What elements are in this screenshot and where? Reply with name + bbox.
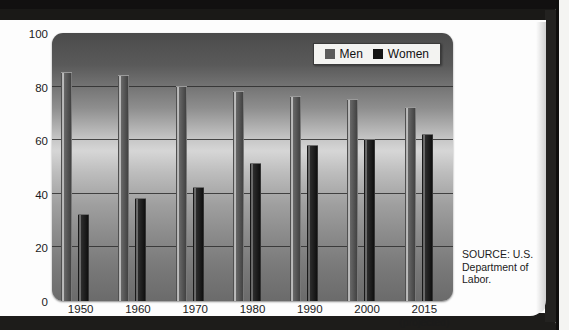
page-frame-right <box>545 10 556 322</box>
bar-highlight <box>119 76 121 301</box>
bar-edge-highlight <box>186 87 187 301</box>
bar-highlight <box>234 92 236 301</box>
page-frame-top <box>0 0 556 22</box>
x-tick-label-1980: 1980 <box>240 303 266 315</box>
bar-women-1950 <box>78 214 89 301</box>
bar-highlight <box>79 215 81 301</box>
bar-highlight <box>348 100 350 301</box>
bar-highlight <box>62 73 64 301</box>
bar-edge-highlight <box>71 73 72 301</box>
y-tick-label-80: 80 <box>2 82 48 94</box>
y-tick-label-0: 0 <box>2 296 48 308</box>
bar-group-2000 <box>338 33 395 301</box>
bar-group-1960 <box>109 33 166 301</box>
bar-edge-highlight <box>415 108 416 301</box>
bar-highlight <box>194 188 196 301</box>
bar-group-1990 <box>281 33 338 301</box>
bar-women-2000 <box>364 139 375 301</box>
bar-edge-highlight <box>243 92 244 301</box>
bar-women-1980 <box>250 163 261 301</box>
bar-highlight <box>251 164 253 301</box>
source-note: SOURCE: U.S. Department of Labor. <box>462 248 542 286</box>
source-line-2: Department of <box>462 261 529 273</box>
bar-edge-highlight <box>88 215 89 301</box>
bar-chart: 020406080100 Men Women 19501960197019801… <box>0 20 546 316</box>
bar-women-2015 <box>422 134 433 301</box>
bar-women-1970 <box>193 187 204 301</box>
bar-edge-highlight <box>260 164 261 301</box>
bar-edge-highlight <box>317 146 318 301</box>
legend-swatch-men-icon <box>325 49 335 59</box>
y-axis: 020406080100 <box>0 33 48 301</box>
page-edge-right <box>556 0 569 330</box>
bar-edge-highlight <box>300 97 301 301</box>
legend-item-men: Men <box>325 48 363 60</box>
bar-group-1950 <box>52 33 109 301</box>
bar-highlight <box>177 87 179 301</box>
bar-group-1970 <box>167 33 224 301</box>
bar-men-2000 <box>347 99 358 301</box>
bar-highlight <box>365 140 367 301</box>
bar-men-1950 <box>61 72 72 301</box>
bar-men-1960 <box>118 75 129 301</box>
plot-area: Men Women <box>52 33 453 301</box>
bar-edge-highlight <box>432 135 433 301</box>
legend-label-men: Men <box>340 48 363 60</box>
bar-men-1970 <box>176 86 187 301</box>
x-axis: 1950196019701980199020002015(projected) <box>52 303 453 330</box>
bar-women-1990 <box>307 145 318 301</box>
x-tick-label-2000: 2000 <box>354 303 380 315</box>
x-tick-label-1950: 1950 <box>68 303 94 315</box>
bar-group-2015 <box>396 33 453 301</box>
bar-edge-highlight <box>128 76 129 301</box>
bar-women-1960 <box>135 198 146 301</box>
x-tick-year: 2015 <box>412 303 438 315</box>
bar-men-2015 <box>405 107 416 301</box>
x-tick-label-2015: 2015(projected) <box>399 303 449 328</box>
bar-edge-highlight <box>203 188 204 301</box>
x-tick-year: 1970 <box>182 303 208 315</box>
x-tick-year: 1950 <box>68 303 94 315</box>
bar-edge-highlight <box>374 140 375 301</box>
legend-label-women: Women <box>388 48 429 60</box>
bar-men-1980 <box>233 91 244 301</box>
bar-men-1990 <box>290 96 301 301</box>
bar-highlight <box>406 108 408 301</box>
bar-groups <box>52 33 453 301</box>
bar-highlight <box>308 146 310 301</box>
bar-highlight <box>136 199 138 301</box>
x-tick-year: 1990 <box>297 303 323 315</box>
source-line-3: Labor. <box>462 273 491 285</box>
legend-item-women: Women <box>373 48 429 60</box>
x-tick-year: 1980 <box>240 303 266 315</box>
y-tick-label-100: 100 <box>2 28 48 40</box>
bar-highlight <box>423 135 425 301</box>
source-line-1: SOURCE: U.S. <box>462 248 533 260</box>
x-tick-label-1970: 1970 <box>182 303 208 315</box>
x-tick-year: 1960 <box>125 303 151 315</box>
x-tick-sublabel: (projected) <box>399 316 449 328</box>
bar-group-1980 <box>224 33 281 301</box>
x-tick-label-1960: 1960 <box>125 303 151 315</box>
y-tick-label-20: 20 <box>2 242 48 254</box>
bar-edge-highlight <box>357 100 358 301</box>
x-tick-label-1990: 1990 <box>297 303 323 315</box>
bar-edge-highlight <box>145 199 146 301</box>
bar-highlight <box>291 97 293 301</box>
x-tick-year: 2000 <box>354 303 380 315</box>
legend-swatch-women-icon <box>373 49 383 59</box>
y-tick-label-60: 60 <box>2 135 48 147</box>
y-tick-label-40: 40 <box>2 189 48 201</box>
chart-legend: Men Women <box>313 43 441 65</box>
